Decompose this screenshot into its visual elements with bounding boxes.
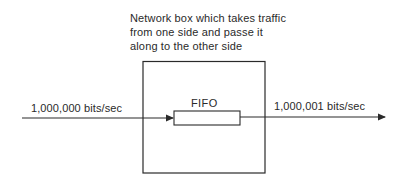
caption-line: Network box which takes traffic	[130, 11, 286, 25]
output-rate-label: 1,000,001 bits/sec	[274, 100, 365, 113]
fifo-label: FIFO	[191, 97, 218, 109]
diagram-canvas: Network box which takes traffic from one…	[0, 0, 406, 185]
caption-line: along to the other side	[130, 39, 286, 53]
caption-line: from one side and passe it	[130, 25, 286, 39]
network-box-caption: Network box which takes traffic from one…	[130, 11, 286, 53]
input-rate-label: 1,000,000 bits/sec	[31, 102, 122, 115]
fifo-queue	[174, 111, 240, 125]
